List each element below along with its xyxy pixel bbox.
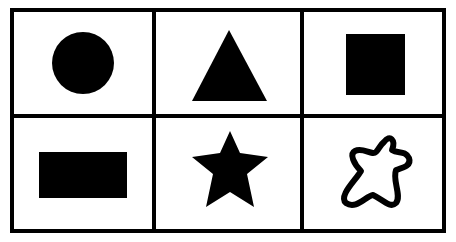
cell-rectangle	[39, 152, 127, 198]
rectangle-shape	[39, 152, 127, 198]
circle-shape	[52, 32, 114, 94]
cell-circle	[52, 32, 114, 94]
cell-square	[346, 34, 405, 95]
shape-grid	[0, 0, 456, 242]
square-shape	[346, 34, 405, 95]
